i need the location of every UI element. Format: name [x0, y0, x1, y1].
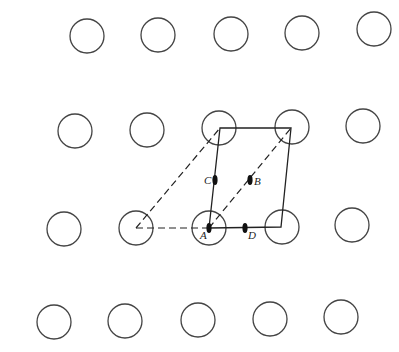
atom-circle [275, 110, 309, 144]
atom-circle [141, 18, 175, 52]
atom-circle [335, 208, 369, 242]
atom-circle [357, 12, 391, 46]
atom-circle [37, 305, 71, 339]
marker-label: C [204, 174, 212, 186]
lattice-diagram: ABCD [0, 0, 399, 352]
atom-circle [47, 212, 81, 246]
lens-icon [206, 223, 211, 233]
atom-circle [108, 304, 142, 338]
atom-circle [285, 16, 319, 50]
atom-circle [253, 302, 287, 336]
marker-label: D [247, 229, 256, 241]
atom-circle [70, 19, 104, 53]
atom-circle [181, 303, 215, 337]
atom-circle [324, 300, 358, 334]
twofold-axis-marker-b: B [247, 175, 261, 187]
twofold-axis-marker-d: D [242, 223, 256, 241]
twofold-axis-marker-a: A [199, 223, 212, 241]
symmetry-markers: ABCD [199, 174, 261, 241]
atom-circle [346, 109, 380, 143]
atom-circle [58, 114, 92, 148]
atom-circle [214, 17, 248, 51]
marker-label: B [254, 175, 261, 187]
lens-icon [212, 175, 217, 185]
marker-label: A [199, 229, 207, 241]
lens-icon [247, 175, 252, 185]
twofold-axis-marker-c: C [204, 174, 218, 186]
atom-circle [130, 113, 164, 147]
lens-icon [242, 223, 247, 233]
